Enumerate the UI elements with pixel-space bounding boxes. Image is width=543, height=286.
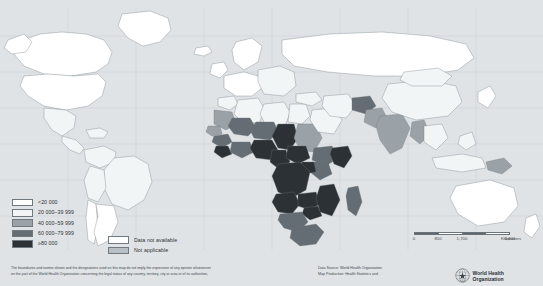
legend-item[interactable]: Data not available (108, 236, 177, 245)
legend-value-classes: <20 000 20 000–39 999 40 000–59 999 60 0… (12, 198, 74, 249)
legend-label: ≥80 000 (38, 241, 57, 246)
who-emblem-icon (455, 268, 470, 283)
scalebar-segment (485, 232, 510, 235)
scalebar-tick: 1,700 (457, 236, 468, 241)
legend-label: 40 000–59 999 (38, 221, 74, 226)
map-production-text: Map Production: Health Statistics and (318, 272, 448, 278)
legend-special-classes: Data not available Not applicable (108, 236, 177, 257)
legend-label: 20 000–39 999 (38, 210, 74, 215)
legend-item[interactable]: 60 000–79 999 (12, 229, 74, 238)
legend-swatch (12, 209, 33, 217)
map-scalebar: 0 850 1,700 3,400 Kilometers (414, 232, 510, 243)
disclaimer-line-2: on the part of the World Health Organiza… (11, 272, 311, 278)
who-logo-line-2: Organization (473, 276, 504, 282)
scalebar-ticks: 0 850 1,700 3,400 Kilometers (414, 236, 510, 243)
map-source-credits: Data Source: World Health Organization M… (318, 266, 448, 278)
map-footer: The boundaries and names shown and the d… (0, 260, 543, 286)
scalebar-tick: 850 (434, 236, 441, 241)
legend-label: Not applicable (134, 248, 168, 253)
legend-item[interactable]: Not applicable (108, 246, 177, 255)
world-map-figure: <20 000 20 000–39 999 40 000–59 999 60 0… (0, 0, 543, 286)
scalebar-track (414, 232, 510, 235)
scalebar-tick: 0 (413, 236, 415, 241)
legend-swatch (108, 236, 129, 244)
who-logo-text: World Health Organization (473, 270, 504, 282)
map-canvas[interactable] (0, 0, 543, 260)
legend-label: 60 000–79 999 (38, 231, 74, 236)
legend-item[interactable]: <20 000 (12, 198, 74, 207)
legend-swatch (12, 199, 33, 207)
who-logo: World Health Organization (455, 268, 504, 283)
legend-swatch (12, 240, 33, 248)
who-logo-line-1: World Health (473, 270, 504, 276)
legend-label: Data not available (134, 238, 177, 243)
scalebar-segment (438, 232, 462, 235)
legend-label: <20 000 (38, 200, 58, 205)
legend-item[interactable]: ≥80 000 (12, 239, 74, 248)
legend-swatch (12, 219, 33, 227)
scalebar-segment (414, 232, 438, 235)
map-disclaimer: The boundaries and names shown and the d… (11, 266, 311, 277)
legend-swatch (12, 230, 33, 238)
scalebar-tick-last: 3,400 Kilometers (510, 236, 511, 241)
legend-item[interactable]: 40 000–59 999 (12, 219, 74, 228)
legend-swatch (108, 247, 129, 255)
legend-item[interactable]: 20 000–39 999 (12, 208, 74, 217)
scalebar-segment (462, 232, 486, 235)
